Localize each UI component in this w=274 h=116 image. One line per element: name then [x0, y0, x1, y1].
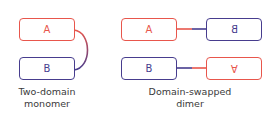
dimer-row1-domain-b-mirrored: B: [206, 18, 262, 41]
dimer-caption: Domain-swapped dimer: [130, 86, 250, 110]
dimer-row2-domain-a-inverted: A: [206, 57, 262, 80]
monomer-domain-a: A: [19, 18, 75, 41]
domain-b-label: B: [146, 63, 153, 74]
domain-a-label: A: [146, 24, 153, 35]
monomer-domain-b: B: [19, 57, 75, 80]
domain-a-label-inverted: A: [231, 63, 238, 74]
monomer-linker: [74, 30, 88, 70]
domain-a-label: A: [44, 24, 51, 35]
domain-b-label: B: [44, 63, 51, 74]
dimer-row2-domain-b: B: [121, 57, 177, 80]
monomer-caption: Two-domain monomer: [0, 86, 94, 110]
domain-b-label-mirrored: B: [231, 24, 238, 35]
dimer-row1-domain-a: A: [121, 18, 177, 41]
